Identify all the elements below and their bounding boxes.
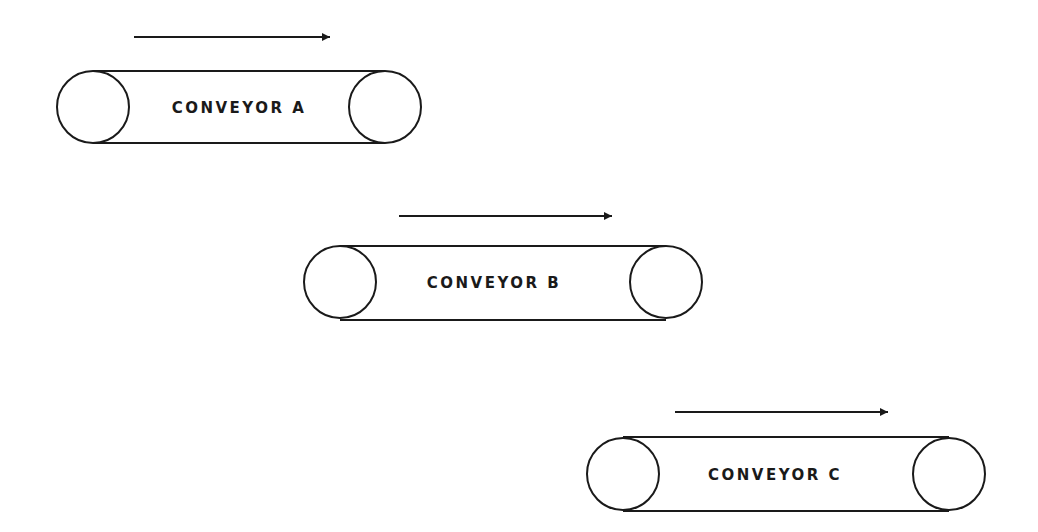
conveyor-a: CONVEYOR A xyxy=(57,37,421,143)
conveyor-label: CONVEYOR A xyxy=(172,99,307,117)
left-pulley xyxy=(304,246,376,318)
right-pulley xyxy=(630,246,702,318)
conveyor-label: CONVEYOR B xyxy=(427,274,561,292)
left-pulley xyxy=(587,438,659,510)
left-pulley xyxy=(57,71,129,143)
conveyor-diagram: CONVEYOR A CONVEYOR B CONVEYOR C xyxy=(0,0,1038,532)
right-pulley xyxy=(913,438,985,510)
right-pulley xyxy=(349,71,421,143)
conveyor-c: CONVEYOR C xyxy=(587,412,985,511)
conveyor-b: CONVEYOR B xyxy=(304,216,702,320)
conveyor-label: CONVEYOR C xyxy=(708,466,842,484)
